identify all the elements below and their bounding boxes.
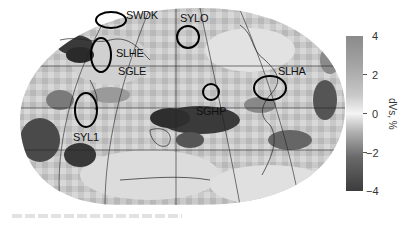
colorbar-tick-label: 2 [372,70,378,81]
colorbar-tick [363,74,367,75]
region-label-slhe: SLHE [116,48,144,59]
region-label-sgle: SGLE [118,66,146,77]
colorbar-title: dVs, % [387,98,398,130]
colorbar [346,36,363,191]
colorbar-tick-label: 4 [372,31,378,42]
tomography-figure: SWDK SYLO SLHE SGLE SLHA SGHP SYL1 4 2 0… [0,0,406,226]
region-label-swdk: SWDK [126,10,158,21]
colorbar-tick [363,113,367,114]
region-label-sghp: SGHP [196,106,226,117]
colorbar-tick-label: −2 [366,148,379,159]
caption-placeholder [12,214,182,218]
region-label-syl1: SYL1 [73,132,99,143]
region-label-slha: SLHA [278,66,306,77]
colorbar-tick-label: −4 [366,186,379,197]
colorbar-tick-label: 0 [372,109,378,120]
region-label-sylo: SYLO [180,13,208,24]
